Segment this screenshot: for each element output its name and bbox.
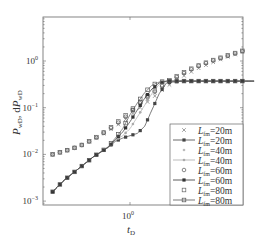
legend: Lfm=20mLfm=20mLfm=40mLfm=40mLfm=60mLfm=6… <box>170 124 243 207</box>
y-axis-label: PwD, dPwD <box>10 90 24 136</box>
y-tick-label: 100 <box>26 55 38 66</box>
x-axis-label: tD <box>127 223 135 237</box>
y-tick-label: 10−3 <box>23 195 38 206</box>
y-tick-label: 10−1 <box>23 102 38 113</box>
x-tick-label: 100 <box>122 210 134 221</box>
log-log-plot: 10−310−210−110010−5100105 Lfm=20mLfm=20m… <box>0 0 257 241</box>
y-tick-label: 10−2 <box>23 148 38 159</box>
chart-container: 10−310−210−110010−5100105 Lfm=20mLfm=20m… <box>0 0 257 241</box>
legend-label: Lfm=80m <box>197 196 233 207</box>
